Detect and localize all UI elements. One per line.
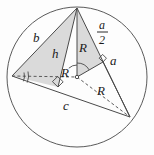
geometry-diagram: b h R R R c a a 2 — [0, 0, 154, 155]
circumcenter-point — [75, 75, 78, 78]
side-c-line — [12, 76, 130, 117]
label-half-a-denominator: 2 — [99, 33, 105, 47]
label-radius-left: R — [60, 65, 69, 80]
diagram-canvas: b h R R R c a a 2 — [0, 0, 154, 155]
label-radius-right: R — [96, 83, 105, 98]
label-side-a: a — [110, 53, 117, 68]
angle-arc-center-left — [69, 65, 77, 68]
label-side-c: c — [63, 98, 69, 113]
label-radius-center: R — [78, 40, 87, 55]
label-side-b: b — [33, 30, 40, 45]
label-half-a-numerator: a — [99, 18, 105, 32]
label-altitude-h: h — [52, 46, 59, 61]
